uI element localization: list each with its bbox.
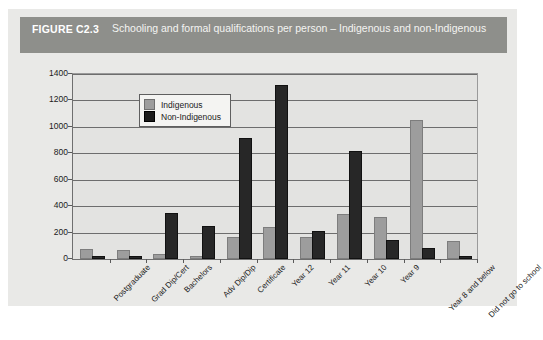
figure-header: FIGURE C2.3 Schooling and formal qualifi… bbox=[20, 17, 507, 53]
bar-group bbox=[73, 74, 110, 259]
legend-label-indigenous: Indigenous bbox=[161, 100, 203, 110]
bar-group bbox=[330, 74, 367, 259]
bar-non-indigenous bbox=[312, 231, 325, 259]
x-tick-label: Year 11 bbox=[327, 263, 352, 288]
y-tick-mark bbox=[68, 258, 72, 259]
figure-number: FIGURE C2.3 bbox=[32, 22, 99, 53]
x-tick-label: Adv Dip/Dip bbox=[221, 263, 257, 299]
bar-group bbox=[404, 74, 441, 259]
y-tick-mark bbox=[68, 179, 72, 180]
y-tick-label: 600 bbox=[22, 174, 68, 184]
y-tick-label: 800 bbox=[22, 147, 68, 157]
bar-non-indigenous bbox=[386, 240, 399, 259]
y-tick-mark bbox=[68, 232, 72, 233]
y-tick-label: 200 bbox=[22, 227, 68, 237]
x-tick-label: Postgraduate bbox=[112, 263, 152, 303]
y-tick-label: 1400 bbox=[22, 68, 68, 78]
x-tick-label: Year 12 bbox=[290, 263, 316, 289]
bar-group bbox=[293, 74, 330, 259]
x-axis-labels: PostgraduateGrad Dip/CertBachelorsAdv Di… bbox=[72, 261, 478, 303]
legend-label-non-indigenous: Non-Indigenous bbox=[161, 112, 221, 122]
bar-non-indigenous bbox=[459, 256, 472, 259]
legend-swatch-indigenous-icon bbox=[144, 99, 155, 110]
bar-non-indigenous bbox=[129, 256, 142, 259]
chart-area: Indigenous Non-Indigenous 02004006008001… bbox=[20, 59, 507, 303]
legend-item-non-indigenous: Non-Indigenous bbox=[144, 111, 221, 122]
y-tick-label: 1200 bbox=[22, 94, 68, 104]
bar-group bbox=[257, 74, 294, 259]
bar-group bbox=[367, 74, 404, 259]
bar-group bbox=[440, 74, 477, 259]
y-tick-mark bbox=[68, 126, 72, 127]
y-tick-mark bbox=[68, 152, 72, 153]
bar-non-indigenous bbox=[275, 85, 288, 259]
x-tick-label: Certificate bbox=[256, 263, 288, 295]
bar-non-indigenous bbox=[422, 248, 435, 259]
bar-non-indigenous bbox=[202, 226, 215, 259]
y-tick-mark bbox=[68, 99, 72, 100]
x-tick-label: Year 10 bbox=[363, 263, 389, 289]
y-tick-label: 0 bbox=[22, 253, 68, 263]
bar-non-indigenous bbox=[165, 213, 178, 259]
legend-swatch-non-indigenous-icon bbox=[144, 111, 155, 122]
x-tick-label: Year 9 bbox=[399, 263, 422, 286]
bars-layer bbox=[73, 74, 477, 259]
y-tick-mark bbox=[68, 73, 72, 74]
figure-card: FIGURE C2.3 Schooling and formal qualifi… bbox=[8, 9, 517, 306]
bar-non-indigenous bbox=[349, 151, 362, 259]
x-tick-label: Grad Dip/Cert bbox=[150, 263, 191, 304]
bar-non-indigenous bbox=[239, 138, 252, 259]
plot-frame: Indigenous Non-Indigenous bbox=[72, 73, 478, 260]
bar-indigenous bbox=[410, 120, 423, 259]
figure-title: Schooling and formal qualifications per … bbox=[112, 22, 486, 53]
y-tick-label: 400 bbox=[22, 200, 68, 210]
y-tick-label: 1000 bbox=[22, 121, 68, 131]
bar-non-indigenous bbox=[92, 256, 105, 259]
x-tick-label: Year 8 and below bbox=[447, 263, 497, 313]
y-tick-mark bbox=[68, 205, 72, 206]
chart-legend: Indigenous Non-Indigenous bbox=[139, 94, 231, 127]
legend-item-indigenous: Indigenous bbox=[144, 99, 221, 110]
